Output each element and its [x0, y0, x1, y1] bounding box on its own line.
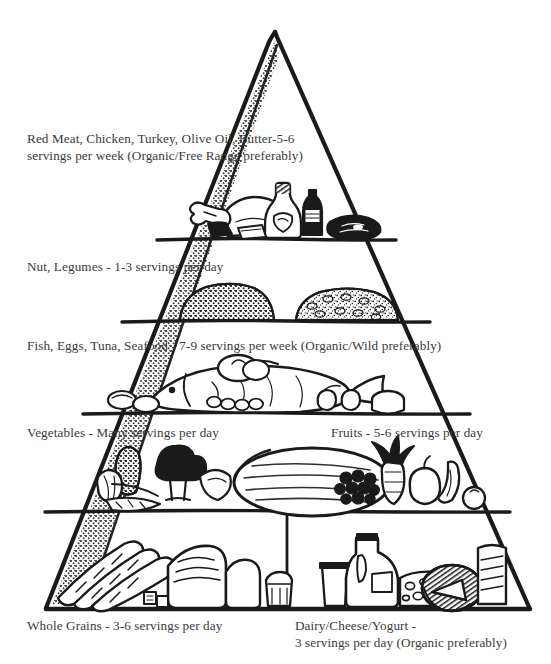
- label-fruits: Fruits - 5-6 servings per day: [331, 424, 483, 441]
- label-nuts-legumes: Nut, Legumes - 1-3 servings per day: [27, 258, 224, 275]
- food-pyramid-diagram: [0, 0, 551, 664]
- tier-nuts-illustration: [180, 284, 398, 320]
- label-meat: Red Meat, Chicken, Turkey, Olive Oil, Bu…: [27, 130, 303, 164]
- label-dairy-cheese-yogurt: Dairy/Cheese/Yogurt - 3 servings per day…: [295, 617, 507, 651]
- tier-dairy-illustration: [320, 534, 506, 611]
- label-vegetables: Vegetables - Many servings per day: [27, 424, 219, 441]
- label-fish-eggs-seafood: Fish, Eggs, Tuna, Seafood - 7-9 servings…: [27, 337, 441, 354]
- label-whole-grains: Whole Grains - 3-6 servings per day: [27, 617, 222, 634]
- tier-fruits-illustration: [335, 436, 485, 509]
